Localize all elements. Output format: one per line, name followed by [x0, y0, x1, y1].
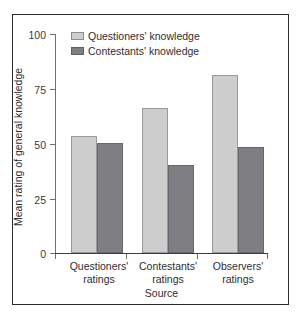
plot-area: 100 75 50 25 0 Questioners' r [55, 34, 268, 254]
legend-label-questioners: Questioners' knowledge [88, 30, 200, 42]
legend-swatch-icon-questioners [71, 32, 84, 40]
x-tick-1 [126, 254, 127, 259]
chart-figure: Mean rating of general knowledge 100 75 … [12, 14, 289, 305]
y-tick-label-50: 50 [34, 139, 46, 151]
y-axis-line [55, 34, 56, 254]
bar-observers-ratings-questioners-knowledge [212, 75, 238, 253]
bar-questioners-ratings-contestants-knowledge [97, 143, 123, 253]
y-axis-title: Mean rating of general knowledge [11, 49, 25, 245]
y-tick-100: 100 [50, 34, 55, 35]
y-tick-label-75: 75 [34, 84, 46, 96]
bar-contestants-ratings-contestants-knowledge [168, 165, 194, 253]
x-axis-line [55, 253, 268, 254]
bar-observers-ratings-contestants-knowledge [238, 147, 264, 253]
legend-item-contestants-knowledge: Contestants' knowledge [71, 44, 200, 57]
y-tick-75: 75 [50, 89, 55, 90]
x-group-label-observers-line2: ratings [185, 273, 291, 286]
x-tick-2 [197, 254, 198, 259]
x-tick-left [55, 254, 56, 259]
legend-swatch-icon-contestants [71, 47, 84, 55]
x-group-label-observers-line1: Observers' [185, 260, 291, 273]
legend-item-questioners-knowledge: Questioners' knowledge [71, 29, 200, 42]
y-tick-50: 50 [50, 144, 55, 145]
y-tick-25: 25 [50, 199, 55, 200]
y-tick-label-0: 0 [40, 248, 46, 260]
x-tick-right [267, 254, 268, 259]
x-group-label-observers: Observers' ratings [185, 260, 291, 285]
bar-questioners-ratings-questioners-knowledge [71, 136, 97, 253]
y-tick-label-25: 25 [34, 194, 46, 206]
bar-contestants-ratings-questioners-knowledge [142, 108, 168, 253]
x-axis-title: Source [55, 287, 268, 299]
legend-label-contestants: Contestants' knowledge [88, 45, 199, 57]
y-tick-label-100: 100 [28, 29, 46, 41]
chart-legend: Questioners' knowledge Contestants' know… [71, 29, 200, 59]
y-axis-title-text: Mean rating of general knowledge [12, 68, 24, 226]
